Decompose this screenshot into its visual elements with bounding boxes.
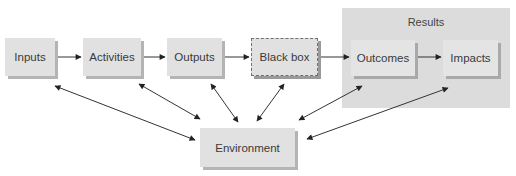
node-environment-label: Environment [215,142,280,154]
node-black-box: Black box [251,38,318,76]
arrow-env-outcomes [299,86,362,120]
node-activities-label: Activities [89,51,134,63]
node-outcomes-label: Outcomes [357,52,409,64]
node-black-box-label: Black box [260,51,310,63]
arrow-env-impacts [307,88,448,139]
node-inputs: Inputs [5,38,55,76]
node-outcomes: Outcomes [351,40,415,76]
node-impacts: Impacts [443,40,498,76]
arrow-env-activities [139,84,200,119]
arrow-env-outputs [211,84,238,122]
node-impacts-label: Impacts [450,52,490,64]
arrow-env-blackbox [257,84,284,121]
node-inputs-label: Inputs [14,51,45,63]
arrow-env-inputs [55,86,195,140]
node-outputs-label: Outputs [174,51,214,63]
node-activities: Activities [83,38,141,76]
node-outputs: Outputs [167,38,222,76]
node-environment: Environment [200,128,295,167]
